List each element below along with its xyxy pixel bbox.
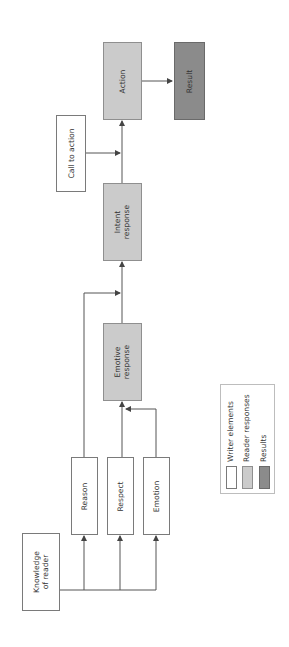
legend-label-reader: Reader responses: [242, 394, 251, 462]
emotion-node: Emotion: [143, 457, 170, 535]
respect-node: Respect: [107, 457, 134, 535]
knowledge-of-reader-node: Knowledge of reader: [22, 533, 60, 611]
legend-swatch-writer: [226, 466, 237, 489]
legend-swatch-reader: [242, 466, 253, 489]
intent-response-label: Intent response: [114, 205, 132, 240]
call-to-action-label: Call to action: [67, 128, 76, 178]
legend-label-writer: Writer elements: [226, 401, 235, 462]
reason-node: Reason: [71, 457, 98, 535]
call-to-action-node: Call to action: [56, 115, 86, 192]
emotive-response-label: Emotive response: [114, 345, 132, 380]
intent-response-node: Intent response: [103, 183, 142, 261]
respect-label: Respect: [116, 481, 125, 511]
reason-label: Reason: [80, 482, 89, 510]
legend-swatch-results: [259, 466, 270, 489]
emotion-label: Emotion: [152, 480, 161, 511]
action-label: Action: [118, 69, 127, 93]
action-node: Action: [103, 42, 142, 120]
result-label: Result: [185, 69, 194, 92]
emotive-response-node: Emotive response: [103, 323, 142, 401]
result-node: Result: [174, 42, 205, 120]
legend-label-results: Results: [259, 435, 268, 462]
legend: Writer elements Reader responses Results: [220, 384, 275, 494]
edge-emotion-emotive: [126, 409, 156, 457]
knowledge-of-reader-label: Knowledge of reader: [32, 551, 50, 593]
